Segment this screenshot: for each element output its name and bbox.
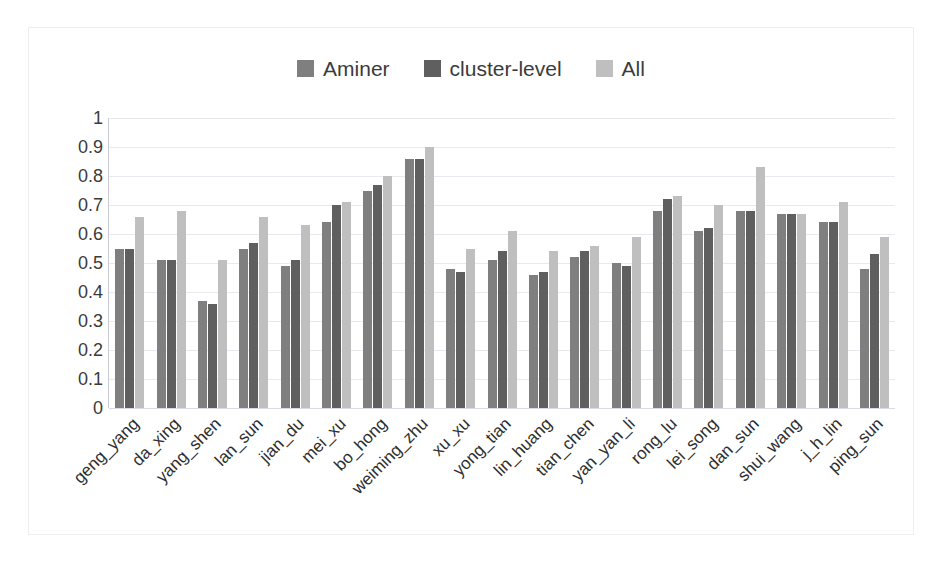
bar (488, 260, 497, 408)
bar-group (812, 118, 853, 408)
bar (839, 202, 848, 408)
bar-group (730, 118, 771, 408)
bar (714, 205, 723, 408)
legend-label-cluster-level: cluster-level (450, 58, 562, 79)
x-label-slot: yang_shen (192, 409, 233, 529)
y-tick-label: 0.9 (78, 138, 103, 156)
legend-label-all: All (622, 58, 645, 79)
x-label-slot: rong_lu (647, 409, 688, 529)
bar (797, 214, 806, 408)
legend-swatch-cluster-level (424, 60, 441, 77)
bar (880, 237, 889, 408)
y-tick-label: 0 (93, 399, 103, 417)
bar (177, 211, 186, 408)
bar (239, 249, 248, 409)
bar (498, 251, 507, 408)
bar-group (523, 118, 564, 408)
chart-frame: Aminer cluster-level All 10.90.80.70.60.… (28, 27, 914, 535)
legend-entry-cluster-level: cluster-level (424, 58, 562, 79)
bar (819, 222, 828, 408)
legend-swatch-all (596, 60, 613, 77)
chart-legend: Aminer cluster-level All (29, 58, 913, 79)
bar (612, 263, 621, 408)
bar (622, 266, 631, 408)
y-tick-label: 0.8 (78, 167, 103, 185)
bar-group (771, 118, 812, 408)
bar-group (109, 118, 150, 408)
bar (259, 217, 268, 408)
bar (870, 254, 879, 408)
bar (363, 191, 372, 409)
bar (383, 176, 392, 408)
bar (446, 269, 455, 408)
bar-group (854, 118, 895, 408)
y-tick-label: 0.3 (78, 312, 103, 330)
bar (405, 159, 414, 408)
bar (198, 301, 207, 408)
bar (704, 228, 713, 408)
x-label-slot: weiming_zhu (399, 409, 440, 529)
bar (125, 249, 134, 409)
bar (694, 231, 703, 408)
bar-group (399, 118, 440, 408)
y-axis-labels: 10.90.80.70.60.50.40.30.20.10 (67, 118, 103, 408)
bar (322, 222, 331, 408)
plot-area: 10.90.80.70.60.50.40.30.20.10 (67, 118, 895, 408)
bar (777, 214, 786, 408)
bar-group (564, 118, 605, 408)
x-axis-labels: geng_yangda_xingyang_shenlan_sunjian_dum… (109, 409, 895, 529)
bar (135, 217, 144, 408)
y-tick-label: 0.7 (78, 196, 103, 214)
bar (673, 196, 682, 408)
bar-group (647, 118, 688, 408)
x-label-slot: geng_yang (109, 409, 150, 529)
bar (756, 167, 765, 408)
bar (332, 205, 341, 408)
bar-group (688, 118, 729, 408)
bar-group (357, 118, 398, 408)
bar (539, 272, 548, 408)
bar-group (275, 118, 316, 408)
bar (787, 214, 796, 408)
y-tick-label: 0.4 (78, 283, 103, 301)
bar (456, 272, 465, 408)
bar (736, 211, 745, 408)
bar-group (440, 118, 481, 408)
bar (632, 237, 641, 408)
legend-entry-aminer: Aminer (297, 58, 390, 79)
bar (508, 231, 517, 408)
bar (157, 260, 166, 408)
x-label-slot: lei_song (688, 409, 729, 529)
y-tick-label: 1 (93, 109, 103, 127)
bar-group (233, 118, 274, 408)
bar-group (481, 118, 522, 408)
bar-group (316, 118, 357, 408)
legend-label-aminer: Aminer (323, 58, 390, 79)
bar (653, 211, 662, 408)
x-label-slot: lan_sun (233, 409, 274, 529)
bar (291, 260, 300, 408)
bar (218, 260, 227, 408)
bar (115, 249, 124, 409)
bar (590, 246, 599, 408)
bar (281, 266, 290, 408)
bar (249, 243, 258, 408)
legend-swatch-aminer (297, 60, 314, 77)
bar (746, 211, 755, 408)
bar (415, 159, 424, 408)
bar (466, 249, 475, 409)
bar (301, 225, 310, 408)
bar (580, 251, 589, 408)
y-tick-label: 0.2 (78, 341, 103, 359)
bar (829, 222, 838, 408)
bar (663, 199, 672, 408)
legend-entry-all: All (596, 58, 645, 79)
x-label-slot: jian_du (275, 409, 316, 529)
x-label-slot: mei_xu (316, 409, 357, 529)
y-tick-label: 0.6 (78, 225, 103, 243)
bar (342, 202, 351, 408)
bar-group (150, 118, 191, 408)
x-label-slot: yan_yan_li (606, 409, 647, 529)
bar (529, 275, 538, 408)
bar (167, 260, 176, 408)
